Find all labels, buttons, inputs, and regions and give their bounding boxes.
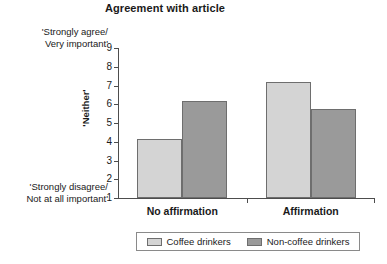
y-axis-tick-label: 5: [106, 118, 112, 128]
y-axis-tick: [114, 67, 118, 68]
bar: [137, 139, 182, 198]
x-axis-tick: [247, 199, 248, 203]
y-axis-tick: [114, 48, 118, 49]
plot-area: 123456789 No affirmationAffirmation: [118, 48, 375, 198]
y-axis-line: [118, 48, 119, 199]
y-axis-tick: [114, 198, 118, 199]
x-axis-category-label: No affirmation: [147, 205, 218, 217]
y-axis-tick: [114, 161, 118, 162]
y-axis-anchor-low: 'Strongly disagree/ Not at all important…: [0, 181, 108, 204]
y-axis-anchor-low-line1: 'Strongly disagree/: [0, 181, 108, 193]
y-axis-title: 'Neither': [80, 89, 91, 126]
bar: [182, 101, 227, 199]
x-axis-category-label: Affirmation: [283, 205, 339, 217]
x-axis-tick-end: [374, 199, 375, 203]
y-axis-tick-label: 9: [106, 43, 112, 53]
y-axis-tick: [114, 104, 118, 105]
legend-swatch: [147, 238, 162, 246]
y-axis-tick-label: 2: [106, 174, 112, 184]
y-axis-tick: [114, 86, 118, 87]
y-axis-tick: [114, 142, 118, 143]
bar: [311, 109, 356, 198]
bar: [266, 82, 311, 198]
y-axis-tick-label: 6: [106, 99, 112, 109]
y-axis-anchor-high-line2: Very important': [0, 38, 108, 50]
y-axis-tick: [114, 123, 118, 124]
legend-item: Coffee drinkers: [147, 236, 231, 247]
legend-swatch: [247, 238, 262, 246]
y-axis-anchor-high: 'Strongly agree/ Very important': [0, 26, 108, 49]
y-axis-tick-label: 8: [106, 62, 112, 72]
y-axis-tick-label: 1: [106, 193, 112, 203]
y-axis-tick-label: 3: [106, 156, 112, 166]
y-axis-tick-label: 4: [106, 137, 112, 147]
y-axis-anchor-high-line1: 'Strongly agree/: [0, 26, 108, 38]
legend-label: Non-coffee drinkers: [267, 236, 350, 247]
bar-chart-figure: Agreement with article 'Strongly agree/ …: [0, 0, 387, 264]
chart-title: Agreement with article: [0, 2, 330, 14]
chart-legend: Coffee drinkersNon-coffee drinkers: [136, 232, 360, 251]
y-axis-tick-label: 7: [106, 81, 112, 91]
y-axis-anchor-low-line2: Not at all important': [0, 193, 108, 205]
y-axis-tick: [114, 179, 118, 180]
legend-label: Coffee drinkers: [167, 236, 231, 247]
legend-item: Non-coffee drinkers: [247, 236, 350, 247]
